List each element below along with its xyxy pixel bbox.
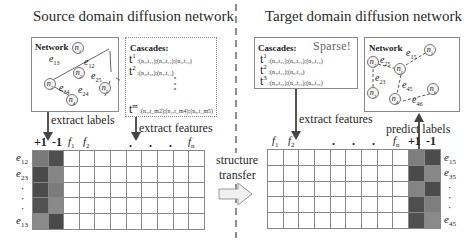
source-row-e12: e12: [16, 151, 28, 166]
source-label-cell: [49, 214, 64, 230]
target-label-cell: [425, 166, 441, 182]
source-label-cell: [33, 183, 49, 199]
source-label-cell: [49, 183, 64, 199]
target-extract-features-text: extract features: [299, 112, 373, 127]
node-n1: n1: [72, 42, 84, 54]
target-node-n5: n5: [394, 63, 406, 75]
target-edge-label-e46: e46: [412, 94, 422, 107]
predict-labels-arrowhead: [414, 113, 424, 122]
target-label-cell: [409, 197, 425, 213]
source-cascades-ellipsis: ⋮: [167, 78, 183, 90]
node-n4: n4: [66, 94, 78, 106]
target-label-cell: [409, 166, 425, 182]
edge-label-e13: e13: [49, 53, 59, 66]
structure-transfer-line2: transfer: [218, 168, 257, 183]
source-feature-matrix: [32, 150, 205, 230]
source-col-f1: f1: [68, 135, 75, 150]
source-row-e13: e13: [16, 214, 28, 229]
source-cascades-box: Cascades: t1 :(n₁,t₁₁);(n₂,t₁₂);(n₃,t₁₃)…: [125, 37, 217, 117]
target-label-cell: [409, 182, 425, 198]
target-edge-label-e45: e45: [402, 79, 412, 92]
extract-labels-text: extract labels: [51, 113, 115, 128]
source-col-plus1: +1: [34, 135, 47, 150]
target-label-cell: [425, 197, 441, 213]
target-node-n3: n3: [367, 87, 379, 99]
source-label-cell: [49, 198, 64, 214]
target-label-cell: [425, 182, 441, 198]
target-node-n4: n4: [389, 93, 401, 105]
target-extract-features-arrow-line: [295, 89, 297, 133]
source-col-minus1: -1: [52, 135, 62, 150]
target-edge-label-e25: e25: [380, 54, 390, 67]
target-col-fn: fn: [393, 134, 400, 149]
edge-label-e25: e25: [91, 70, 101, 83]
source-extract-features-text: extract features: [139, 121, 213, 136]
target-cascade-3: t3 :(n₃,t₃₃);(n₂,t₃₂);(n₅,t₃₅): [260, 74, 323, 89]
target-row-dot: ·: [448, 201, 451, 213]
structure-transfer-line1: structure: [215, 153, 259, 168]
target-feature-matrix: [267, 149, 441, 229]
node-n5: n5: [99, 82, 111, 94]
target-edge-label-e23: e23: [375, 72, 385, 85]
structure-transfer-arrow-icon: [218, 182, 254, 206]
source-label-cell: [49, 151, 64, 167]
target-label-cell: [425, 150, 441, 166]
target-node-n2: n2: [367, 56, 379, 68]
target-col-minus1: -1: [426, 134, 436, 149]
source-label-cell: [33, 151, 49, 167]
target-col-f2: f2: [288, 134, 295, 149]
source-label-cell: [49, 167, 64, 183]
node-n3: n3: [44, 78, 56, 90]
target-label-cell: [409, 150, 425, 166]
target-col-plus1: +1: [408, 134, 421, 149]
target-node-n1: n1: [424, 44, 436, 56]
source-row-dot: ·: [21, 202, 24, 214]
target-col-ellipsis: . . .: [332, 134, 382, 149]
edge-label-e34: e34: [59, 82, 69, 95]
target-row-e45: e45: [444, 213, 456, 228]
edge-label-e12: e12: [84, 56, 94, 69]
source-title: Source domain diffusion network: [33, 8, 234, 25]
target-label-cell: [425, 213, 441, 229]
target-row-e35: e35: [444, 166, 456, 181]
target-node-n6: n6: [427, 83, 439, 95]
source-label-cell: [33, 214, 49, 230]
target-cascades-box: Cascades: Sparse! t1 :(n₁,t₁₁);(n₅,t₁₅);…: [254, 37, 358, 89]
target-label-cell: [409, 213, 425, 229]
target-col-f1: f1: [272, 134, 279, 149]
source-col-fn: fn: [188, 135, 195, 150]
edge-label-e24: e24: [78, 84, 88, 97]
target-row-e15: e15: [444, 151, 456, 166]
source-row-e23: e23: [16, 167, 28, 182]
source-col-f2: f2: [83, 135, 90, 150]
target-edge-label-e15: e15: [406, 47, 416, 60]
extract-labels-arrow-line: [47, 112, 49, 134]
source-label-cell: [33, 167, 49, 183]
source-col-ellipsis: . . .: [129, 136, 179, 151]
source-label-cell: [33, 198, 49, 214]
target-title: Target domain diffusion network: [265, 8, 462, 25]
source-cascade-m: tm :(n₂,t_m2);(n₄,t_m4);(n₅,t_m5): [129, 102, 213, 117]
